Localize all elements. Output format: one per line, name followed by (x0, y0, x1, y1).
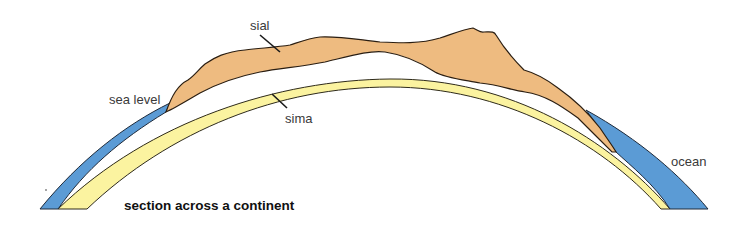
label-sima: sima (285, 112, 312, 125)
label-sea-level: sea level (109, 93, 160, 106)
speck (45, 189, 47, 191)
label-sial: sial (250, 19, 270, 32)
sial-layer (166, 28, 616, 152)
continent-cross-section (0, 0, 749, 230)
label-ocean: ocean (671, 155, 706, 168)
diagram-caption: section across a continent (124, 199, 294, 213)
